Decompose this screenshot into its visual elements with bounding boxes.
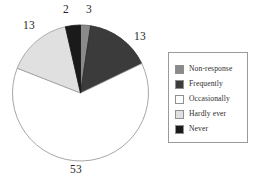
legend-item[interactable]: Non-response (175, 62, 245, 76)
legend-item-label: Occasionally (189, 95, 230, 103)
slice-value-label-never: 3 (86, 4, 92, 16)
pie-plot-area: 2 3 13 13 53 (0, 0, 165, 183)
legend-swatch-icon (175, 65, 184, 74)
pie-slice-group (13, 25, 149, 161)
legend-swatch-icon (175, 125, 184, 134)
legend-item-label: Non-response (189, 65, 232, 73)
legend-item[interactable]: Hardly ever (175, 107, 245, 121)
legend-item[interactable]: Frequently (175, 77, 245, 91)
legend-item-label: Never (189, 125, 208, 133)
legend-item-label: Frequently (189, 80, 223, 88)
legend-item-label: Hardly ever (189, 110, 226, 118)
legend-item[interactable]: Occasionally (175, 92, 245, 106)
pie-chart-figure: 2 3 13 13 53 Non-responseFrequentlyOccas… (0, 0, 261, 183)
slice-value-label-frequently: 13 (134, 31, 146, 43)
slice-value-label-hardly-ever: 13 (23, 20, 35, 32)
legend-item[interactable]: Never (175, 122, 245, 136)
legend-swatch-icon (175, 80, 184, 89)
legend-item-list: Non-responseFrequentlyOccasionallyHardly… (175, 62, 245, 137)
legend-swatch-icon (175, 95, 184, 104)
slice-value-label-occasionally: 53 (70, 164, 82, 176)
legend-box: Non-responseFrequentlyOccasionallyHardly… (168, 52, 248, 143)
legend-swatch-icon (175, 110, 184, 119)
slice-value-label-non-response: 2 (63, 4, 69, 16)
